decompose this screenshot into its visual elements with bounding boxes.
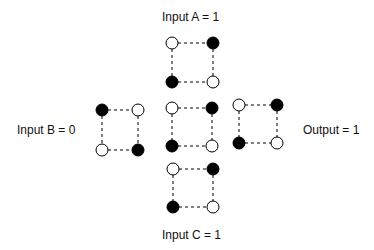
open-dot-icon xyxy=(206,140,218,152)
filled-dot-icon xyxy=(167,201,179,213)
open-dot-icon xyxy=(271,137,283,149)
open-dot-icon xyxy=(166,37,178,49)
open-dot-icon xyxy=(167,163,179,175)
open-dot-icon xyxy=(207,201,219,213)
filled-dot-icon xyxy=(207,163,219,175)
filled-dot-icon xyxy=(207,37,219,49)
input-b-cell xyxy=(96,104,144,156)
input-a-cell xyxy=(166,37,219,88)
input-c-cell xyxy=(167,163,219,213)
filled-dot-icon xyxy=(166,140,178,152)
filled-dot-icon xyxy=(206,102,218,114)
filled-dot-icon xyxy=(166,76,178,88)
filled-dot-icon xyxy=(132,144,144,156)
output-cell xyxy=(233,99,283,149)
filled-dot-icon xyxy=(233,137,245,149)
qca-diagram xyxy=(0,0,374,250)
open-dot-icon xyxy=(233,99,245,111)
open-dot-icon xyxy=(132,104,144,116)
open-dot-icon xyxy=(207,76,219,88)
center-cell xyxy=(166,102,218,152)
open-dot-icon xyxy=(96,144,108,156)
filled-dot-icon xyxy=(271,99,283,111)
open-dot-icon xyxy=(166,102,178,114)
filled-dot-icon xyxy=(96,104,108,116)
